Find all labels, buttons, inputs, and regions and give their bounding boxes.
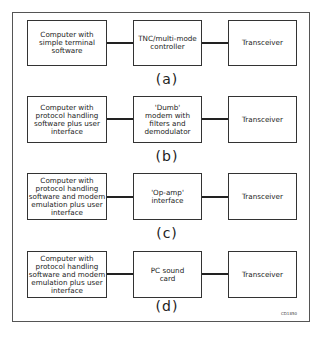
computer-box-a: Computer with simple terminal software xyxy=(27,20,107,66)
soundcard-box-d: PC sound card xyxy=(133,251,202,298)
connector-a1 xyxy=(107,42,134,44)
connector-b2 xyxy=(202,118,229,120)
connector-b1 xyxy=(107,118,134,120)
caption-b: (b) xyxy=(137,148,197,164)
connector-d1 xyxy=(107,273,134,275)
caption-a: (a) xyxy=(137,71,197,87)
computer-box-c: Computer with protocol handling software… xyxy=(27,173,107,220)
connector-a2 xyxy=(202,42,229,44)
connector-c2 xyxy=(202,196,229,198)
figure-code: CD1850 xyxy=(281,311,297,316)
interface-box-c: 'Op-amp' interface xyxy=(133,173,202,220)
transceiver-box-c: Transceiver xyxy=(228,173,297,220)
caption-c: (c) xyxy=(137,225,197,241)
modem-box-b: 'Dumb' modem with filters and demodulato… xyxy=(133,96,202,143)
transceiver-box-d: Transceiver xyxy=(228,251,297,298)
connector-d2 xyxy=(202,273,229,275)
transceiver-box-b: Transceiver xyxy=(228,96,297,143)
computer-box-b: Computer with protocol handling software… xyxy=(27,96,107,143)
caption-d: (d) xyxy=(137,298,197,314)
transceiver-box-a: Transceiver xyxy=(228,20,297,66)
connector-c1 xyxy=(107,196,134,198)
controller-box-a: TNC/multi-mode controller xyxy=(133,20,202,66)
computer-box-d: Computer with protocol handling software… xyxy=(27,251,107,298)
